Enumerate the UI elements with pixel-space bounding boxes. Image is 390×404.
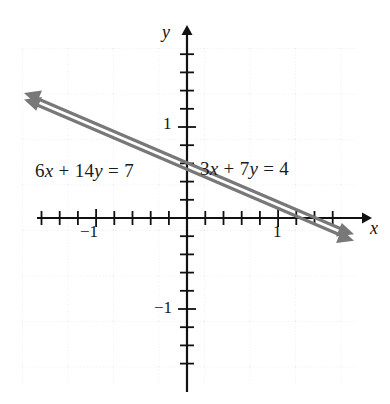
left-eq-plus: + [54,160,75,181]
left-eq-coef-y: 14 [75,160,95,181]
left-eq-coef-x: 6 [35,160,45,181]
right-eq-coef-y: 7 [240,158,250,179]
x-axis-label: x [370,218,378,239]
equation-label-left: 6x + 14y = 7 [35,160,134,182]
left-eq-equals: = [103,160,124,181]
right-eq-var-y: y [249,158,258,179]
right-eq-plus: + [219,158,240,179]
right-eq-rhs: 4 [279,158,289,179]
graph-figure: y x −1 1 1 −1 6x + 14y = 7 3x + 7y = 4 [0,0,390,404]
coordinate-plane [0,0,390,404]
equation-label-right: 3x + 7y = 4 [200,158,289,180]
left-eq-var-x: x [45,160,54,181]
right-eq-coef-x: 3 [200,158,210,179]
y-tick-label-positive-one: 1 [163,114,172,134]
x-tick-label-positive-one: 1 [273,222,282,242]
right-eq-var-x: x [210,158,219,179]
left-eq-var-y: y [94,160,103,181]
grid-layer [22,48,355,385]
left-eq-rhs: 7 [124,160,134,181]
y-tick-label-negative-one: −1 [154,298,172,318]
y-axis-label: y [162,22,170,43]
right-eq-equals: = [258,158,279,179]
x-tick-label-negative-one: −1 [80,222,98,242]
